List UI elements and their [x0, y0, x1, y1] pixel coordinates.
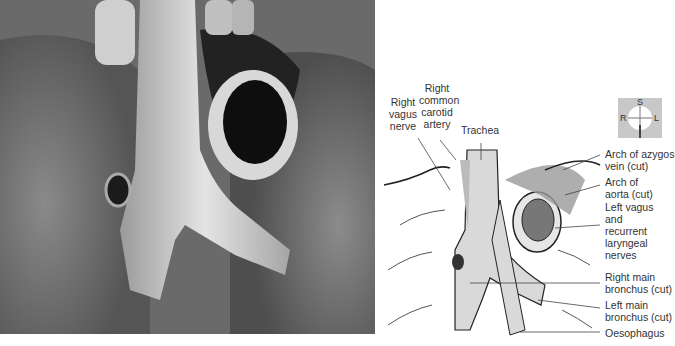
label-trachea: Trachea [461, 124, 499, 136]
label-right-main-bronchus: Right main bronchus (cut) [605, 271, 675, 295]
orientation-compass: S R L [618, 98, 662, 138]
label-arch-of-aorta: Arch of aorta (cut) [605, 176, 665, 200]
label-oesophagus: Oesophagus [605, 327, 665, 339]
dissection-photo [0, 0, 375, 340]
label-left-vagus-recurrent-laryngeal: Left vagus and recurrent laryngeal nerve… [605, 201, 657, 261]
label-arch-of-azygos-vein: Arch of azygos vein (cut) [605, 148, 675, 172]
line-diagram: Right vagus nerve Right common carotid a… [377, 0, 675, 346]
compass-superior: S [637, 98, 643, 107]
photo-illustration [0, 0, 375, 340]
compass-right: R [620, 114, 627, 123]
compass-left: L [654, 114, 659, 123]
label-right-vagus-nerve: Right vagus nerve [383, 96, 423, 132]
label-right-common-carotid-artery: Right common carotid artery [419, 82, 455, 130]
label-left-main-bronchus: Left main bronchus (cut) [605, 299, 675, 323]
